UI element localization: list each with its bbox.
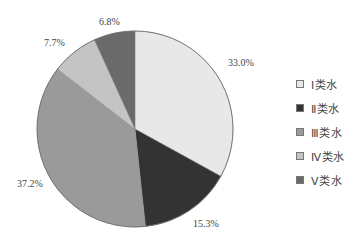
legend-label: Ⅳ类水 <box>311 148 345 164</box>
legend-item-class-2: Ⅱ类水 <box>296 96 345 120</box>
legend-swatch-icon <box>296 128 304 136</box>
legend-swatch-icon <box>296 80 304 88</box>
legend-swatch-icon <box>296 152 304 160</box>
legend-item-class-5: Ⅴ类水 <box>296 168 345 192</box>
legend-label: Ⅰ类水 <box>311 76 338 92</box>
legend-swatch-icon <box>296 104 304 112</box>
slice-percent-label: 33.0% <box>228 57 254 68</box>
slice-percent-label: 15.3% <box>193 218 219 229</box>
legend-item-class-4: Ⅳ类水 <box>296 144 345 168</box>
legend-item-class-3: Ⅲ类水 <box>296 120 345 144</box>
slice-percent-label: 37.2% <box>17 178 43 189</box>
legend-label: Ⅴ类水 <box>311 172 342 188</box>
pie-slices <box>37 31 233 227</box>
legend-item-class-1: Ⅰ类水 <box>296 72 345 96</box>
legend-label: Ⅱ类水 <box>311 100 340 116</box>
legend-swatch-icon <box>296 176 304 184</box>
slice-percent-label: 6.8% <box>99 16 120 27</box>
slice-percent-label: 7.7% <box>44 37 65 48</box>
legend-label: Ⅲ类水 <box>311 124 342 140</box>
chart-legend: Ⅰ类水 Ⅱ类水 Ⅲ类水 Ⅳ类水 Ⅴ类水 <box>296 72 345 192</box>
